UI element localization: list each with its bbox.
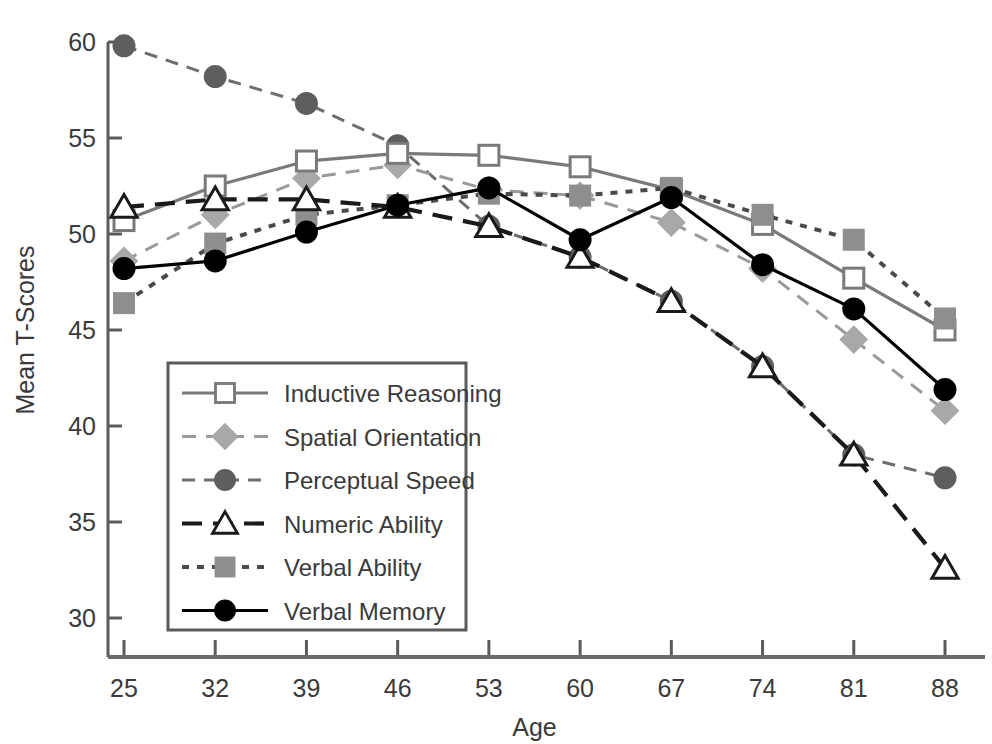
y-axis-tick-label: 35 xyxy=(68,508,96,536)
data-point-filled-square xyxy=(753,205,772,224)
y-axis-tick-label: 30 xyxy=(68,604,96,632)
legend-item-perceptual-speed[interactable]: Perceptual Speed xyxy=(172,461,475,499)
y-axis-tick-label: 45 xyxy=(68,316,96,344)
x-axis-tick-label: 74 xyxy=(749,674,777,702)
data-point-filled-circle xyxy=(752,254,773,275)
x-axis-tick-label: 60 xyxy=(566,674,594,702)
data-point-open-square xyxy=(216,384,235,403)
x-axis-tick-label: 88 xyxy=(931,674,959,702)
data-point-filled-circle xyxy=(114,258,135,279)
legend-item-label: Perceptual Speed xyxy=(284,467,475,494)
legend-item-label: Verbal Memory xyxy=(284,598,445,625)
data-point-filled-circle xyxy=(843,298,864,319)
x-axis-tick-label: 53 xyxy=(475,674,503,702)
legend-item-spatial-orientation[interactable]: Spatial Orientation xyxy=(172,418,481,456)
data-point-filled-circle xyxy=(478,177,499,198)
data-point-filled-circle xyxy=(935,379,956,400)
y-axis-tick-label: 40 xyxy=(68,412,96,440)
y-axis-tick-label: 55 xyxy=(68,124,96,152)
x-axis-tick-label: 39 xyxy=(293,674,321,702)
data-point-filled-square xyxy=(115,294,134,313)
data-point-filled-circle xyxy=(114,35,135,56)
data-point-filled-circle xyxy=(570,229,591,250)
legend-item-label: Verbal Ability xyxy=(284,554,421,581)
chart-legend: Inductive ReasoningSpatial OrientationPe… xyxy=(168,363,501,630)
legend-item-label: Numeric Ability xyxy=(284,511,443,538)
y-axis-title: Mean T-Scores xyxy=(11,245,39,414)
legend-item-inductive-reasoning[interactable]: Inductive Reasoning xyxy=(172,374,501,412)
legend-item-numeric-ability[interactable]: Numeric Ability xyxy=(172,505,462,543)
data-point-diamond xyxy=(658,209,684,235)
chart-container: Inductive ReasoningSpatial OrientationPe… xyxy=(0,0,992,744)
x-axis-tick-label: 81 xyxy=(840,674,868,702)
data-point-filled-circle xyxy=(387,195,408,216)
data-point-filled-circle xyxy=(215,470,235,490)
legend-item-verbal-memory[interactable]: Verbal Memory xyxy=(172,592,462,630)
x-axis-tick-label: 25 xyxy=(110,674,138,702)
data-point-filled-circle xyxy=(296,222,317,243)
x-axis-tick-label: 67 xyxy=(657,674,685,702)
data-point-filled-circle xyxy=(205,66,226,87)
data-point-open-square xyxy=(844,268,864,288)
data-point-diamond xyxy=(932,398,958,424)
data-point-filled-circle xyxy=(205,250,226,271)
x-axis-title: Age xyxy=(512,713,556,741)
line-chart: Inductive ReasoningSpatial OrientationPe… xyxy=(0,0,992,744)
legend-item-label: Inductive Reasoning xyxy=(284,380,501,407)
y-axis-tick-label: 60 xyxy=(68,28,96,56)
data-point-open-square xyxy=(479,145,499,165)
data-point-open-square xyxy=(388,143,408,163)
series-line xyxy=(124,188,945,390)
data-point-open-square xyxy=(296,151,316,171)
data-point-filled-square xyxy=(216,558,234,576)
legend-item-label: Spatial Orientation xyxy=(284,424,481,451)
data-point-filled-circle xyxy=(215,601,235,621)
data-point-filled-square xyxy=(844,230,863,249)
series-line xyxy=(124,188,945,319)
data-point-filled-square xyxy=(936,309,955,328)
data-point-filled-circle xyxy=(296,93,317,114)
data-point-diamond xyxy=(841,327,867,353)
data-point-filled-circle xyxy=(935,467,956,488)
x-axis-tick-label: 32 xyxy=(201,674,229,702)
data-point-filled-square xyxy=(571,186,590,205)
data-point-open-square xyxy=(570,157,590,177)
y-axis-tick-label: 50 xyxy=(68,220,96,248)
x-axis-tick-label: 46 xyxy=(384,674,412,702)
legend-item-verbal-ability[interactable]: Verbal Ability xyxy=(172,548,462,586)
data-point-filled-circle xyxy=(661,187,682,208)
